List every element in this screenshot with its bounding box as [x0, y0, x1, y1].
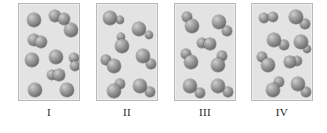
large-atom-sphere — [115, 39, 129, 53]
large-atom-sphere — [28, 83, 42, 97]
particle-field — [19, 4, 79, 100]
panel-label: IV — [251, 106, 313, 119]
large-atom-sphere — [103, 11, 117, 25]
large-atom-sphere — [183, 79, 197, 93]
large-atom-sphere — [107, 84, 121, 98]
large-atom-sphere — [60, 83, 74, 97]
large-atom-sphere — [35, 36, 47, 48]
panel-label: II — [96, 106, 158, 119]
large-atom-sphere — [294, 35, 307, 48]
large-atom-sphere — [266, 83, 280, 97]
large-atom-sphere — [289, 10, 302, 23]
large-atom-sphere — [184, 55, 198, 69]
small-atom-sphere — [223, 87, 232, 96]
sample-box-iv — [251, 3, 313, 101]
large-atom-sphere — [70, 61, 80, 72]
small-atom-sphere — [145, 31, 154, 40]
large-atom-sphere — [268, 12, 279, 23]
large-atom-sphere — [64, 23, 78, 37]
large-atom-sphere — [185, 19, 199, 33]
small-atom-sphere — [145, 87, 154, 96]
large-atom-sphere — [284, 56, 295, 67]
molecular-models-figure: IIIIIIIV — [0, 0, 327, 133]
large-atom-sphere — [204, 38, 215, 49]
large-atom-sphere — [291, 77, 305, 91]
large-atom-sphere — [107, 59, 121, 73]
large-atom-sphere — [211, 58, 225, 72]
sample-box-i — [18, 3, 80, 101]
small-atom-sphere — [195, 88, 204, 97]
large-atom-sphere — [267, 33, 281, 47]
large-atom-sphere — [27, 13, 42, 28]
large-atom-sphere — [25, 53, 39, 67]
particle-field — [175, 4, 235, 100]
large-atom-sphere — [53, 69, 64, 80]
panel-label: III — [174, 106, 236, 119]
large-atom-sphere — [49, 50, 63, 64]
large-atom-sphere — [261, 58, 275, 72]
sample-box-ii — [96, 3, 158, 101]
small-atom-sphere — [222, 26, 231, 35]
sample-box-iii — [174, 3, 236, 101]
particle-field — [97, 4, 157, 100]
particle-field — [252, 4, 312, 100]
panel-label: I — [18, 106, 80, 119]
